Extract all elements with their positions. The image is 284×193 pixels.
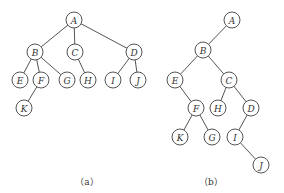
node-label: H [83, 76, 92, 86]
node-label: I [232, 133, 237, 143]
node-a-E: E [12, 72, 28, 88]
node-label: B [31, 48, 39, 58]
node-label: C [72, 48, 79, 58]
caption-tree-a: （a） [75, 175, 98, 188]
node-label: E [171, 76, 179, 86]
node-label: A [70, 16, 78, 26]
node-label: B [199, 46, 207, 56]
node-a-F: F [33, 72, 49, 88]
node-label: H [213, 104, 222, 114]
tree-diagram-canvas: ABCDEFGHIJKABECFHDKGIJ [0, 0, 284, 193]
node-label: F [37, 76, 45, 86]
node-b-B: B [195, 42, 211, 58]
node-a-G: G [59, 72, 75, 88]
tree-b-nodes: ABECFHDKGIJ [167, 12, 269, 173]
node-a-A: A [66, 12, 82, 28]
node-label: D [246, 104, 254, 114]
node-label: C [226, 76, 233, 86]
node-a-B: B [27, 44, 43, 60]
node-b-E: E [167, 72, 183, 88]
tree-a-nodes: ABCDEFGHIJK [12, 12, 146, 116]
edge-a-A-D [74, 20, 134, 52]
tree-a-edges [20, 20, 138, 108]
node-b-F: F [188, 100, 204, 116]
node-label: E [16, 76, 24, 86]
node-a-H: H [80, 72, 96, 88]
node-b-H: H [210, 100, 226, 116]
node-label: G [208, 133, 215, 143]
node-a-D: D [126, 44, 142, 60]
node-a-K: K [16, 100, 32, 116]
node-label: I [110, 76, 115, 86]
node-label: K [20, 104, 29, 114]
node-b-K: K [172, 129, 188, 145]
node-a-J: J [130, 72, 146, 88]
node-label: G [63, 76, 70, 86]
node-b-I: I [227, 129, 243, 145]
node-a-C: C [67, 44, 83, 60]
edges-layer [20, 20, 261, 165]
node-a-I: I [105, 72, 121, 88]
node-b-D: D [243, 100, 259, 116]
node-label: K [176, 133, 185, 143]
node-b-C: C [221, 72, 237, 88]
node-b-A: A [224, 12, 240, 28]
node-label: F [192, 104, 200, 114]
tree-b-edges [175, 20, 261, 165]
node-b-G: G [204, 129, 220, 145]
nodes-layer: ABCDEFGHIJKABECFHDKGIJ [12, 12, 269, 173]
node-b-J: J [253, 157, 269, 173]
caption-tree-b: （b） [199, 175, 223, 188]
node-label: A [228, 16, 236, 26]
node-label: D [129, 48, 137, 58]
